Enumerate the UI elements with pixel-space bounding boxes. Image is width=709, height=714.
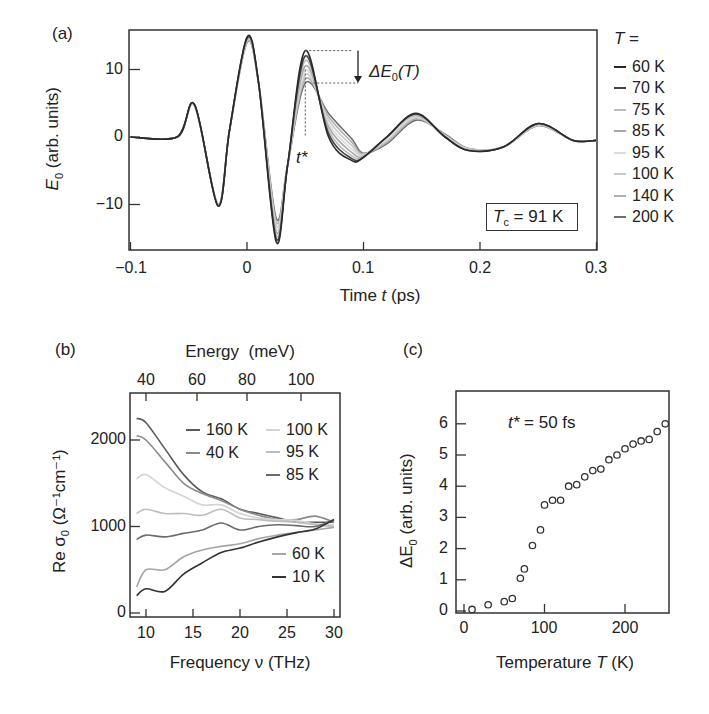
a-series-line	[131, 39, 597, 231]
b-legend-item: 160 K	[186, 421, 248, 439]
legend-swatch-icon	[272, 576, 286, 578]
b-ytick-1000: 1000	[70, 517, 126, 535]
a-series-line	[131, 39, 597, 227]
a-xtick-1: −0.1	[111, 259, 151, 277]
legend-label: 10 K	[292, 568, 325, 586]
legend-swatch-icon	[614, 66, 626, 68]
legend-label: 160 K	[206, 421, 248, 439]
b-ytick-2000: 2000	[70, 430, 126, 448]
b-xtick-20: 20	[222, 624, 258, 642]
b-top-tick-40: 40	[128, 371, 164, 389]
b-legend-item: 10 K	[272, 568, 325, 586]
a-legend-item: 200 K	[614, 207, 674, 229]
c-ytick-label: 6	[428, 414, 448, 432]
c-ytick-label: 2	[428, 539, 448, 557]
c-data-point	[606, 456, 612, 462]
c-data-point	[654, 428, 660, 434]
legend-swatch-icon	[614, 130, 626, 132]
legend-label: 40 K	[206, 444, 239, 462]
legend-label: 100 K	[632, 165, 674, 183]
legend-swatch-icon	[614, 173, 626, 175]
c-data-point	[662, 421, 668, 427]
legend-label: 140 K	[632, 187, 674, 205]
legend-swatch-icon	[186, 452, 200, 454]
c-ytick-label: 0	[428, 601, 448, 619]
a-legend-item: 85 K	[614, 121, 674, 143]
c-data-point	[509, 595, 515, 601]
b-xlabel: Frequency ν (THz)	[150, 653, 330, 673]
c-data-point	[582, 474, 588, 480]
c-xlabel: Temperature T (K)	[470, 653, 660, 673]
c-data-point	[598, 466, 604, 472]
legend-swatch-icon	[186, 429, 200, 431]
c-data-point	[469, 606, 475, 612]
legend-swatch-icon	[614, 87, 626, 89]
legend-swatch-icon	[266, 429, 280, 431]
b-xtick-30: 30	[316, 624, 352, 642]
a-legend-item: 100 K	[614, 164, 674, 186]
c-data-point	[549, 497, 555, 503]
c-data-point	[517, 575, 523, 581]
c-data-point	[622, 446, 628, 452]
c-data-point	[630, 441, 636, 447]
c-ytick-label: 1	[428, 570, 448, 588]
c-data-point	[541, 502, 547, 508]
a-legend-item: 70 K	[614, 78, 674, 100]
c-data-point	[574, 481, 580, 487]
c-data-point	[614, 452, 620, 458]
legend-label: 60 K	[632, 58, 665, 76]
legend-label: 85 K	[632, 122, 665, 140]
c-xtick-100: 100	[526, 619, 562, 637]
a-legend-item: 95 K	[614, 142, 674, 164]
a-legend: 60 K70 K75 K85 K95 K100 K140 K200 K	[614, 56, 674, 228]
panel-a-label: (a)	[52, 24, 73, 44]
c-data-point	[537, 527, 543, 533]
a-xtick-4: 0.2	[460, 259, 500, 277]
legend-label: 60 K	[292, 545, 325, 563]
a-tstar-annotation: t*	[296, 148, 307, 168]
c-ytick-label: 3	[428, 507, 448, 525]
c-ytick-label: 4	[428, 476, 448, 494]
a-series-line	[131, 40, 597, 224]
legend-swatch-icon	[614, 195, 626, 197]
b-xtick-10: 10	[128, 624, 164, 642]
legend-label: 75 K	[632, 101, 665, 119]
a-xtick-3: 0.1	[343, 259, 383, 277]
c-data-point	[565, 483, 571, 489]
c-data-point	[557, 497, 563, 503]
c-xtick-0: 0	[450, 619, 478, 637]
legend-label: 100 K	[286, 421, 328, 439]
a-legend-item: 60 K	[614, 56, 674, 78]
b-top-xlabel: Energy (meV)	[170, 342, 310, 362]
legend-swatch-icon	[614, 152, 626, 154]
c-data-point	[590, 467, 596, 473]
b-legend-item: 95 K	[266, 443, 319, 461]
c-data-point	[646, 436, 652, 442]
b-legend-item: 100 K	[266, 421, 328, 439]
a-xtick-5: 0.3	[576, 259, 616, 277]
b-ytick-0: 0	[70, 603, 126, 621]
b-top-tick-60: 60	[179, 371, 215, 389]
legend-label: 95 K	[286, 443, 319, 461]
legend-label: 95 K	[632, 144, 665, 162]
legend-swatch-icon	[266, 451, 280, 453]
legend-label: 70 K	[632, 79, 665, 97]
panel-b-label: (b)	[55, 340, 76, 360]
a-legend-item: 140 K	[614, 185, 674, 207]
b-xtick-25: 25	[269, 624, 305, 642]
a-delta-e0-annotation: ΔE0(T)	[369, 62, 420, 83]
legend-label: 200 K	[632, 208, 674, 226]
a-xlabel: Time t (ps)	[300, 286, 460, 306]
a-legend-title: T =	[614, 29, 639, 49]
c-data-point	[501, 598, 507, 604]
legend-swatch-icon	[614, 109, 626, 111]
legend-swatch-icon	[614, 216, 626, 218]
a-xtick-2: 0	[227, 259, 267, 277]
c-ytick-label: 5	[428, 445, 448, 463]
b-legend-item: 85 K	[266, 466, 319, 484]
c-data-point	[638, 438, 644, 444]
a-legend-item: 75 K	[614, 99, 674, 121]
c-ylabel: ΔE0 (arb. units)	[397, 431, 418, 591]
c-tstar-annotation: t* = 50 fs	[508, 413, 576, 433]
b-legend-item: 40 K	[186, 444, 239, 462]
